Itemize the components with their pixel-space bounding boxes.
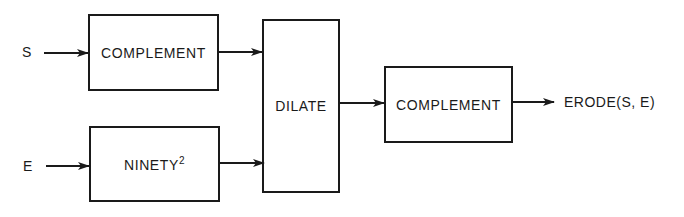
- input-s-label: S: [22, 44, 32, 60]
- ninety-text: NINETY: [124, 157, 179, 173]
- complement-block-top: COMPLEMENT: [88, 14, 219, 91]
- complement-block-top-label: COMPLEMENT: [101, 45, 206, 61]
- dilate-block: DILATE: [262, 19, 340, 193]
- ninety-block: NINETY2: [89, 126, 220, 202]
- complement-block-output-label: COMPLEMENT: [396, 97, 501, 113]
- input-e-label: E: [23, 158, 33, 174]
- complement-block-output: COMPLEMENT: [384, 66, 513, 143]
- ninety-superscript: 2: [179, 155, 185, 166]
- ninety-block-label: NINETY2: [124, 155, 185, 173]
- dilate-block-label: DILATE: [275, 98, 327, 114]
- output-label: ERODE(S, E): [564, 94, 655, 110]
